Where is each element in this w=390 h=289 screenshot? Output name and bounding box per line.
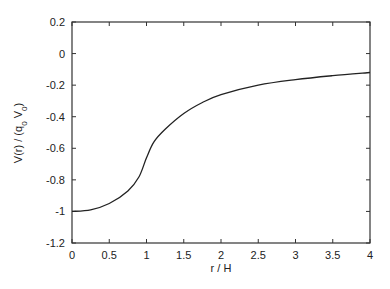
x-tick-label: 0.5 (102, 249, 117, 261)
y-tick-label: -1.2 (46, 237, 65, 249)
x-tick-label: 3 (292, 249, 298, 261)
y-tick-label: -0.4 (46, 111, 65, 123)
x-tick-label: 1 (143, 249, 149, 261)
y-axis-label: V(r) / (q0 V0) (12, 103, 29, 163)
y-tick-label: -0.8 (46, 174, 65, 186)
y-tick-label: 0.2 (50, 16, 65, 28)
y-tick-label: -1 (55, 205, 65, 217)
x-tick-label: 2.5 (251, 249, 266, 261)
plot-border (72, 22, 370, 243)
line-chart: 00.511.522.533.54 0.20-0.2-0.4-0.6-0.8-1… (0, 0, 390, 289)
plot-frame (72, 22, 370, 243)
x-tick-label: 4 (367, 249, 373, 261)
x-axis-label: r / H (211, 262, 232, 274)
x-tick-label: 0 (69, 249, 75, 261)
axis-ticks (72, 22, 370, 243)
x-tick-label: 3.5 (325, 249, 340, 261)
x-tick-label: 2 (218, 249, 224, 261)
y-tick-label: -0.6 (46, 142, 65, 154)
x-tick-label: 1.5 (176, 249, 191, 261)
y-tick-label: -0.2 (46, 79, 65, 91)
y-tick-label: 0 (59, 48, 65, 60)
series-line (72, 73, 370, 212)
x-axis-tick-labels: 00.511.522.533.54 (69, 249, 373, 261)
data-series (72, 73, 370, 212)
y-axis-tick-labels: 0.20-0.2-0.4-0.6-0.8-1-1.2 (46, 16, 65, 249)
